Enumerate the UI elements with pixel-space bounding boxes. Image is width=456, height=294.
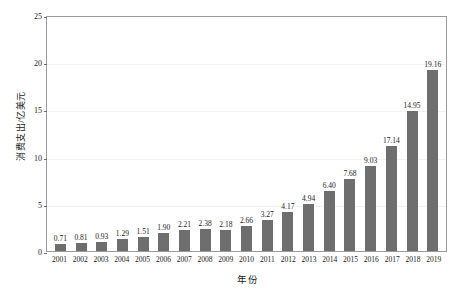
bar-value-label: 0.81 bbox=[74, 234, 87, 243]
bar-value-label: 4.94 bbox=[302, 195, 315, 204]
bar-slot: 1.90 bbox=[153, 17, 174, 251]
bar bbox=[241, 226, 252, 251]
bar-value-label: 1.29 bbox=[116, 230, 129, 239]
y-tick-label: 0 bbox=[2, 249, 47, 257]
x-tick-label: 2018 bbox=[403, 254, 424, 268]
x-tick-label: 2017 bbox=[382, 254, 403, 268]
bar-slot: 3.27 bbox=[257, 17, 278, 251]
bar-value-label: 2.18 bbox=[219, 221, 232, 230]
x-tick-label: 2004 bbox=[111, 254, 132, 268]
bar bbox=[138, 237, 149, 251]
bar-value-label: 3.27 bbox=[261, 211, 274, 220]
bar-value-label: 9.03 bbox=[364, 157, 377, 166]
y-axis-title: 消费支出/亿美元 bbox=[14, 0, 28, 252]
x-tick-label: 2001 bbox=[49, 254, 70, 268]
bar bbox=[324, 191, 335, 251]
bar bbox=[200, 229, 211, 251]
x-tick-label: 2008 bbox=[195, 254, 216, 268]
bar bbox=[262, 220, 273, 251]
bar-value-label: 14.95 bbox=[404, 102, 421, 111]
bar-slot: 9.03 bbox=[360, 17, 381, 251]
bar bbox=[365, 166, 376, 251]
bar-slot: 2.21 bbox=[174, 17, 195, 251]
bar bbox=[407, 111, 418, 251]
bar-series: 0.710.810.931.291.511.902.212.382.182.66… bbox=[47, 17, 446, 251]
bar-slot: 0.71 bbox=[50, 17, 71, 251]
bar bbox=[76, 243, 87, 251]
bar-value-label: 7.68 bbox=[343, 170, 356, 179]
bar-slot: 7.68 bbox=[340, 17, 361, 251]
bar-slot: 2.18 bbox=[216, 17, 237, 251]
bar bbox=[96, 242, 107, 251]
bar bbox=[55, 244, 66, 251]
x-tick-label: 2010 bbox=[236, 254, 257, 268]
y-tick-label: 15 bbox=[2, 107, 47, 115]
bar-value-label: 17.14 bbox=[383, 137, 400, 146]
x-axis-tick-labels: 2001200220032004200520062007200820092010… bbox=[46, 254, 447, 268]
x-axis-title: 年份 bbox=[45, 272, 450, 286]
x-tick-label: 2019 bbox=[423, 254, 444, 268]
bar bbox=[179, 230, 190, 251]
bar bbox=[303, 204, 314, 251]
bar-value-label: 19.16 bbox=[424, 61, 441, 70]
y-tick-label: 5 bbox=[2, 202, 47, 210]
plot-area: 0510152025 0.710.810.931.291.511.902.212… bbox=[46, 16, 447, 252]
bar-slot: 2.66 bbox=[236, 17, 257, 251]
bar bbox=[427, 70, 438, 251]
bar-slot: 4.17 bbox=[278, 17, 299, 251]
bar-slot: 6.40 bbox=[319, 17, 340, 251]
x-tick-label: 2012 bbox=[278, 254, 299, 268]
bar-value-label: 6.40 bbox=[323, 182, 336, 191]
bar-value-label: 1.51 bbox=[137, 228, 150, 237]
bar-value-label: 0.71 bbox=[54, 235, 67, 244]
bar bbox=[117, 239, 128, 251]
x-tick-label: 2002 bbox=[70, 254, 91, 268]
bar bbox=[386, 146, 397, 251]
y-tick-label: 25 bbox=[2, 13, 47, 21]
bar-slot: 4.94 bbox=[298, 17, 319, 251]
x-tick-label: 2007 bbox=[174, 254, 195, 268]
bar-value-label: 2.21 bbox=[178, 221, 191, 230]
bar-value-label: 0.93 bbox=[95, 233, 108, 242]
y-tick-label: 20 bbox=[2, 60, 47, 68]
x-tick-label: 2013 bbox=[299, 254, 320, 268]
bar-slot: 1.51 bbox=[133, 17, 154, 251]
x-tick-label: 2016 bbox=[361, 254, 382, 268]
x-tick-label: 2011 bbox=[257, 254, 278, 268]
bar-slot: 0.81 bbox=[71, 17, 92, 251]
x-tick-label: 2009 bbox=[215, 254, 236, 268]
bar-slot: 1.29 bbox=[112, 17, 133, 251]
bar-value-label: 2.38 bbox=[199, 220, 212, 229]
y-tick-label: 10 bbox=[2, 155, 47, 163]
x-tick-label: 2003 bbox=[91, 254, 112, 268]
x-tick-label: 2014 bbox=[319, 254, 340, 268]
bar bbox=[220, 230, 231, 251]
bar-slot: 14.95 bbox=[402, 17, 423, 251]
bar bbox=[344, 179, 355, 251]
bar bbox=[158, 233, 169, 251]
bar-slot: 17.14 bbox=[381, 17, 402, 251]
bar-value-label: 4.17 bbox=[281, 203, 294, 212]
x-tick-label: 2006 bbox=[153, 254, 174, 268]
bar bbox=[282, 212, 293, 251]
bar-slot: 2.38 bbox=[195, 17, 216, 251]
x-tick-label: 2005 bbox=[132, 254, 153, 268]
bar-value-label: 2.66 bbox=[240, 217, 253, 226]
bar-value-label: 1.90 bbox=[157, 224, 170, 233]
bar-slot: 19.16 bbox=[422, 17, 443, 251]
bar-chart-figure: 消费支出/亿美元 0510152025 0.710.810.931.291.51… bbox=[0, 0, 456, 294]
bar-slot: 0.93 bbox=[91, 17, 112, 251]
x-tick-label: 2015 bbox=[340, 254, 361, 268]
